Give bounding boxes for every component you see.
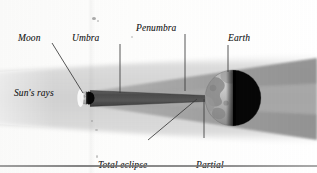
label-total-eclipse-seen: Total eclipse seen [98,138,147,173]
label-suns-rays: Sun's rays [14,88,54,99]
label-penumbra: Penumbra [136,23,176,34]
scan-speck-6 [96,155,98,158]
sunlit-rim [77,89,83,107]
figure-page: Moon Umbra Penumbra Earth Sun's rays Tot… [0,0,317,173]
label-earth: Earth [228,33,250,44]
label-partial-eclipse-seen: Partial eclipse seen [196,138,243,173]
figure-bottom-rule [0,165,317,167]
scan-speck-5 [95,129,98,131]
label-moon: Moon [18,33,41,44]
scan-speck-3 [131,36,133,38]
scan-speck-1 [92,17,96,20]
scan-speck-4 [91,120,93,122]
scan-speck-2 [97,20,99,22]
label-umbra: Umbra [72,33,99,44]
